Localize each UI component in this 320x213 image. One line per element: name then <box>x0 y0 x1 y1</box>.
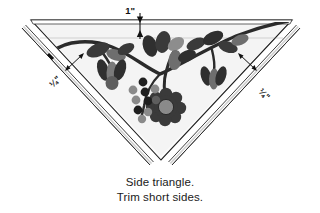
left-trim-tick <box>48 54 53 59</box>
berry <box>144 108 152 116</box>
flower-center <box>158 99 173 114</box>
left-dimension-label: ¼" <box>47 74 62 89</box>
caption-line-2: Trim short sides. <box>0 190 320 205</box>
berry <box>152 96 160 104</box>
berry <box>139 78 148 87</box>
berry <box>134 106 143 115</box>
triangle-top-edge-thickness <box>31 20 292 24</box>
right-dimension-label: ¼" <box>257 86 272 101</box>
berry <box>138 115 146 123</box>
top-dimension-label: 1" <box>125 5 135 16</box>
center-flower <box>146 88 186 126</box>
berry <box>151 85 160 94</box>
berry <box>141 88 150 97</box>
bud-base <box>106 76 119 90</box>
berry <box>144 97 153 106</box>
figure-root: 1" ¼" ¼" Side triangle. Trim short sides… <box>0 0 320 213</box>
berry <box>129 86 138 95</box>
caption-line-1: Side triangle. <box>0 175 320 190</box>
berry <box>132 96 141 105</box>
figure-caption: Side triangle. Trim short sides. <box>0 175 320 205</box>
